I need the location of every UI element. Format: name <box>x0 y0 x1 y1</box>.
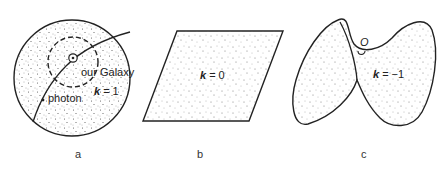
curvature-label-a: k= 1 <box>94 85 119 97</box>
panel-a: our Galaxy photon k= 1 a <box>14 20 135 160</box>
galaxy-label: our Galaxy <box>81 66 135 78</box>
panel-c: O k= −1 c <box>293 19 436 160</box>
curvature-label-b: k= 0 <box>200 69 225 81</box>
origin-label: O <box>360 36 369 48</box>
caption-a: a <box>75 148 82 160</box>
caption-c: c <box>361 148 367 160</box>
galaxy-marker-center-icon <box>72 57 75 60</box>
curvature-diagram: our Galaxy photon k= 1 a k= 0 b O k= −1 … <box>0 0 444 170</box>
saddle-stipple <box>293 19 436 126</box>
caption-b: b <box>197 148 203 160</box>
photon-dot <box>42 99 45 102</box>
panel-b: k= 0 b <box>143 31 283 160</box>
curvature-label-c: k= −1 <box>373 68 404 80</box>
photon-label: photon <box>48 92 82 104</box>
